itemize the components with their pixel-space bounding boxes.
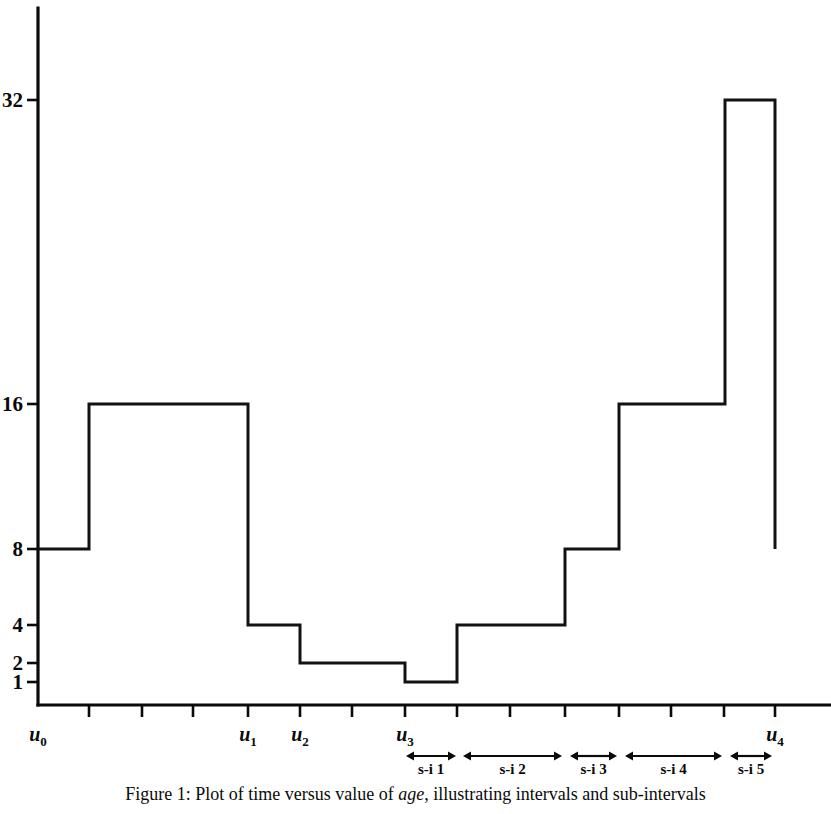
sub-interval-3: s-i 3 xyxy=(570,752,617,778)
arrow-right-icon xyxy=(448,752,456,761)
y-tick-label-16: 16 xyxy=(2,392,23,416)
arrow-left-icon xyxy=(406,752,414,761)
caption-emphasis: age xyxy=(398,784,424,804)
sub-interval-5-label: s-i 5 xyxy=(738,761,764,777)
arrow-right-icon xyxy=(714,752,722,761)
arrow-left-icon xyxy=(625,752,633,761)
sub-interval-4: s-i 4 xyxy=(625,752,722,778)
x-axis-label-u4: u4 xyxy=(766,723,784,749)
y-tick-group xyxy=(27,100,38,682)
y-tick-label-2: 2 xyxy=(13,651,24,675)
arrow-right-icon xyxy=(554,752,562,761)
sub-interval-1: s-i 1 xyxy=(406,752,456,778)
caption-prefix: Figure 1: Plot of time versus value of xyxy=(125,784,398,804)
arrow-left-icon xyxy=(570,752,578,761)
x-tick-group xyxy=(89,705,775,717)
x-axis-label-u1: u1 xyxy=(239,723,257,749)
y-tick-label-8: 8 xyxy=(13,537,24,561)
step-plot: 12481632 u0u1u2u3u4 s-i 1s-i 2s-i 3s-i 4… xyxy=(0,0,831,790)
sub-interval-3-label: s-i 3 xyxy=(580,761,606,777)
sub-interval-1-label: s-i 1 xyxy=(418,761,444,777)
arrow-left-icon xyxy=(463,752,471,761)
sub-interval-2-label: s-i 2 xyxy=(499,761,525,777)
x-axis-label-u0: u0 xyxy=(29,723,47,749)
x-axis-label-u3: u3 xyxy=(396,723,414,749)
figure-container: 12481632 u0u1u2u3u4 s-i 1s-i 2s-i 3s-i 4… xyxy=(0,0,831,814)
sub-interval-5: s-i 5 xyxy=(730,752,772,778)
y-tick-label-32: 32 xyxy=(2,88,23,112)
figure-caption: Figure 1: Plot of time versus value of a… xyxy=(0,784,831,805)
x-tick-label-group: u0u1u2u3u4 xyxy=(29,723,784,749)
sub-interval-4-label: s-i 4 xyxy=(660,761,687,777)
caption-suffix: , illustrating intervals and sub-interva… xyxy=(424,784,705,804)
x-axis-label-u2: u2 xyxy=(291,723,309,749)
y-tick-label-4: 4 xyxy=(13,613,24,637)
sub-interval-annotation-group: s-i 1s-i 2s-i 3s-i 4s-i 5 xyxy=(406,752,772,778)
arrow-left-icon xyxy=(730,752,738,761)
sub-interval-2: s-i 2 xyxy=(463,752,562,778)
arrow-right-icon xyxy=(609,752,617,761)
step-function-line xyxy=(38,100,775,682)
arrow-right-icon xyxy=(764,752,772,761)
y-tick-label-group: 12481632 xyxy=(2,88,24,694)
